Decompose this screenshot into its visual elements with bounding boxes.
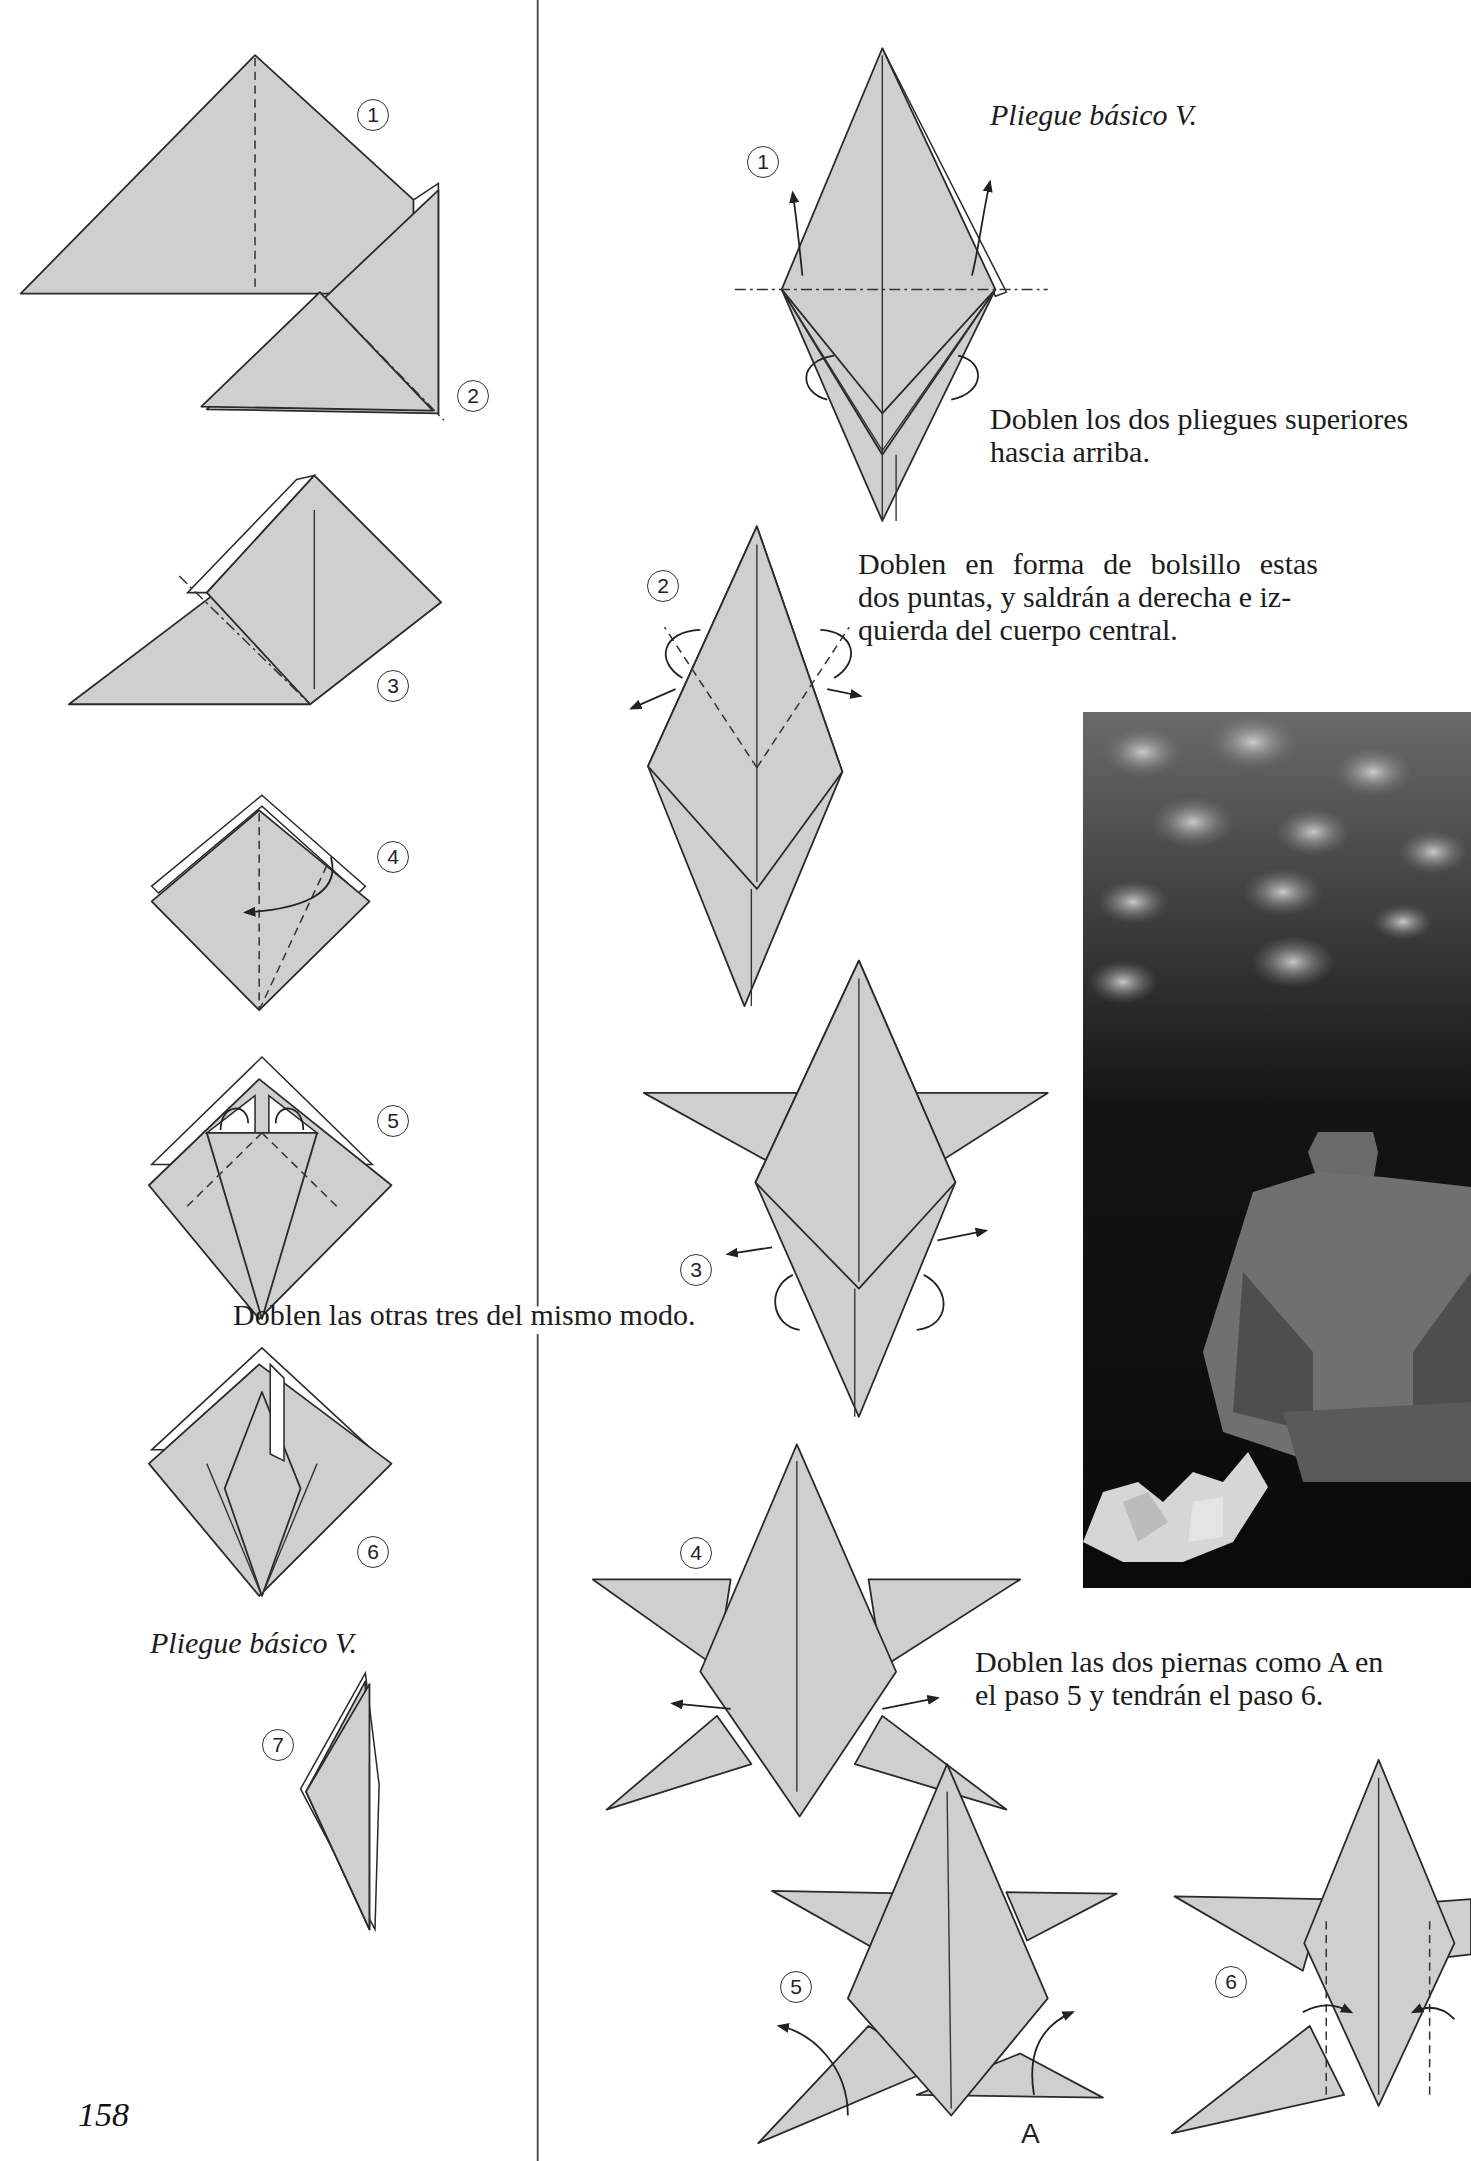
instruction-line: hascia arriba. [990,435,1408,468]
right-step-4-instruction: Doblen las dos piernas como A en el paso… [975,1645,1383,1711]
left-step-1-number: 1 [357,99,389,131]
instruction-line: Doblen en forma de bolsillo estas [858,547,1318,580]
page-number: 158 [78,2096,129,2134]
right-step-1-number: 1 [747,146,779,178]
right-step-1-instruction: Doblen los dos pliegues superiores hasci… [990,402,1408,468]
left-step-6-diagram [149,1348,392,1596]
left-step-5-number: 5 [377,1105,409,1137]
left-caption-repeat: Doblen las otras tres del mismo modo. [233,1298,695,1331]
right-step-2-instruction: Doblen en forma de bolsillo estas dos pu… [858,547,1318,646]
right-step-5-diagram [758,1764,1116,2143]
left-step-7-number: 7 [262,1729,294,1761]
left-step-3-number: 3 [377,670,409,702]
left-step-6-number: 6 [357,1536,389,1568]
right-step-4-number: 4 [680,1537,712,1569]
left-step-7-diagram [301,1673,380,1929]
right-step-3-diagram [644,961,1048,1417]
right-step-5-number: 5 [780,1971,812,2003]
left-step-2-number: 2 [457,380,489,412]
left-step-1-diagram [21,55,414,293]
right-step-6-number: 6 [1215,1966,1247,1998]
instruction-line: quierda del cuerpo central. [858,613,1318,646]
instruction-line: dos puntas, y saldrán a derecha e iz- [858,580,1318,613]
left-step-4-number: 4 [377,841,409,873]
right-step-4-diagram [593,1444,1020,1816]
instruction-line: Doblen las dos piernas como A en [975,1645,1383,1678]
origami-frog-photo [1083,712,1471,1588]
instruction-line: Doblen los dos pliegues superiores [990,402,1408,435]
left-caption-pliegue-basico: Pliegue básico V. [150,1626,357,1659]
instruction-line: el paso 5 y tendrán el paso 6. [975,1678,1383,1711]
point-label-a: A [1021,2118,1040,2150]
left-step-5-diagram [149,1057,392,1319]
left-step-3-diagram [69,475,441,704]
right-step-3-number: 3 [680,1254,712,1286]
right-step-2-number: 2 [647,570,679,602]
right-step-6-diagram [1172,1760,1471,2133]
right-caption-pliegue-basico: Pliegue básico V. [990,98,1197,131]
left-step-4-diagram [152,795,370,1010]
